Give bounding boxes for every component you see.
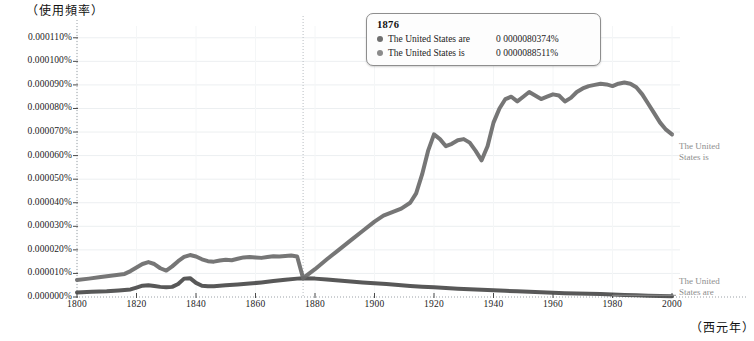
chart-container: （使用頻率） （西元年） 0.000110%0.000100%0.000090%…: [0, 0, 754, 341]
tooltip-row: The United States are0 0000080374%: [377, 33, 592, 45]
series-swatch-icon: [377, 50, 383, 56]
tooltip-series-name: The United States are: [388, 33, 496, 45]
tooltip-year: 1876: [377, 19, 592, 30]
tooltip-row: The United States is0 0000088511%: [377, 47, 592, 59]
series-label-is: The United States is: [679, 141, 739, 162]
tooltip-series-value: 0 0000088511%: [496, 47, 558, 59]
series-label-are: The United States are: [679, 276, 739, 297]
tooltip-series-name: The United States is: [388, 47, 496, 59]
chart-tooltip: 1876 The United States are0 0000080374%T…: [366, 13, 601, 66]
series-swatch-icon: [377, 36, 383, 42]
tooltip-rows: The United States are0 0000080374%The Un…: [377, 33, 592, 59]
tooltip-series-value: 0 0000080374%: [496, 33, 559, 45]
